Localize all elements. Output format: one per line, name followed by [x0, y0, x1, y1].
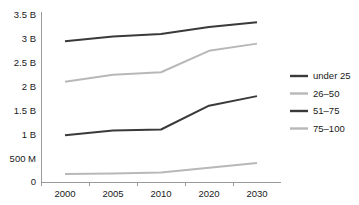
x-axis	[42, 182, 282, 186]
x-axis-tick-labels: 20002005201020202030	[54, 188, 267, 199]
x-tick-label: 2010	[150, 188, 171, 199]
legend-label-1: 26–50	[313, 88, 339, 99]
y-tick-label: 1 B	[22, 129, 36, 140]
x-tick-label: 2030	[246, 188, 267, 199]
data-series-group	[65, 22, 257, 174]
y-axis-tick-labels: 0500 M1 B1.5 B2 B2.5 B3 B3.5 B	[10, 9, 36, 187]
series-line-1	[65, 44, 257, 82]
series-line-3	[65, 163, 257, 174]
y-tick-label: 1.5 B	[14, 105, 36, 116]
y-tick-label: 500 M	[10, 153, 36, 164]
series-line-2	[65, 96, 257, 135]
y-tick-label: 2 B	[22, 81, 36, 92]
chart-canvas: 0500 M1 B1.5 B2 B2.5 B3 B3.5 B 200020052…	[0, 0, 359, 205]
x-tick-label: 2005	[102, 188, 123, 199]
legend-label-2: 51–75	[313, 105, 339, 116]
y-tick-label: 2.5 B	[14, 57, 36, 68]
legend-label-0: under 25	[313, 70, 351, 81]
y-tick-label: 3 B	[22, 33, 36, 44]
chart-legend: under 2526–5051–7575–100	[290, 70, 351, 133]
line-chart: 0500 M1 B1.5 B2 B2.5 B3 B3.5 B 200020052…	[0, 0, 359, 205]
series-line-0	[65, 22, 257, 41]
y-tick-label: 0	[31, 176, 36, 187]
x-tick-label: 2020	[198, 188, 219, 199]
legend-label-3: 75–100	[313, 123, 345, 134]
x-tick-label: 2000	[54, 188, 75, 199]
y-tick-label: 3.5 B	[14, 9, 36, 20]
